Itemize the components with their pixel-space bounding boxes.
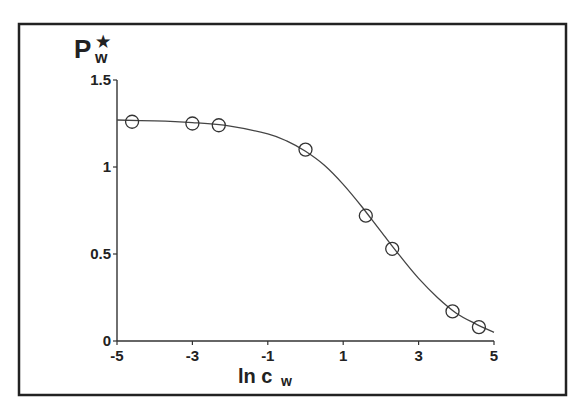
y-tick-label: 1 <box>103 158 111 175</box>
y-tick-label: 1.5 <box>90 71 111 88</box>
x-axis-ticks: -5-3-1135 <box>110 341 498 364</box>
y-tick-label: 0.5 <box>90 245 111 262</box>
x-tick-label: -1 <box>261 347 274 364</box>
x-axis-label-main: ln c <box>238 365 272 387</box>
x-tick-label: -5 <box>110 347 123 364</box>
x-tick-label: 5 <box>490 347 498 364</box>
data-point-marker <box>446 305 459 318</box>
chart: P w ★ 00.511.5 -5-3-1135 ln c w <box>0 0 569 404</box>
x-tick-label: 3 <box>414 347 422 364</box>
x-axis-label-sub: w <box>280 373 292 389</box>
x-tick-label: 1 <box>339 347 347 364</box>
fitted-curve <box>117 120 494 332</box>
x-axis-label: ln c w <box>238 365 292 389</box>
data-point-marker <box>299 143 312 156</box>
y-axis-label-sub: w <box>94 49 108 66</box>
star-icon: ★ <box>96 33 111 50</box>
data-markers <box>126 115 486 333</box>
y-axis-ticks: 00.511.5 <box>90 71 117 349</box>
data-point-marker <box>126 115 139 128</box>
y-axis-label: P w ★ <box>74 33 111 66</box>
x-tick-label: -3 <box>186 347 199 364</box>
y-axis-label-main: P <box>74 34 91 64</box>
data-point-marker <box>386 242 399 255</box>
